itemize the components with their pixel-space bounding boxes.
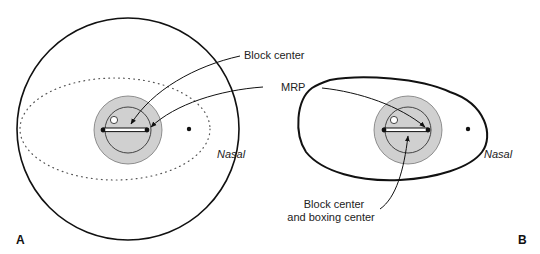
lens-block-diagram: Nasal A Block center MRP Nasal Block cen…	[0, 0, 540, 254]
mrp-label: MRP	[281, 81, 305, 93]
block-boxing-label-line2: and boxing center	[287, 211, 375, 223]
bar-endpoint-left	[101, 128, 106, 133]
nasal-label-b: Nasal	[484, 148, 513, 160]
block-boxing-label-line1: Block center	[304, 198, 365, 210]
block-pin-hole-b	[390, 116, 397, 123]
bar-endpoint-left-b	[382, 128, 387, 133]
panel-label-b: B	[518, 233, 527, 247]
bar-endpoint-right	[145, 128, 150, 133]
block-bar-b	[384, 128, 428, 132]
arrow-mrp-a	[151, 87, 263, 127]
bar-endpoint-right-b	[426, 128, 431, 133]
nasal-reference-dot	[187, 127, 191, 131]
nasal-label-a: Nasal	[217, 148, 246, 160]
panel-label-a: A	[16, 233, 25, 247]
block-pin-hole	[110, 116, 117, 123]
block-center-label: Block center	[244, 49, 305, 61]
nasal-reference-dot-b	[466, 127, 470, 131]
panel-b: Nasal Block center and boxing center B	[287, 77, 527, 247]
panel-a: Nasal A	[16, 18, 263, 247]
block-bar	[103, 128, 147, 132]
